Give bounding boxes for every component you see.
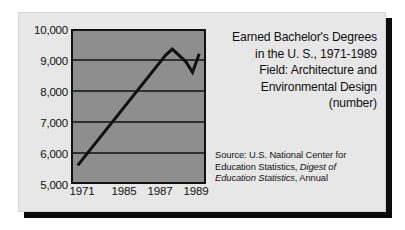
y-tick-7000: 7,000 [40,118,68,130]
source-note-line-2-plain: Education Statistics, [215,161,300,172]
figure-root: 10,000 9,000 8,000 7,000 6,000 5,000 197… [0,0,405,230]
source-note-line-1: Source: U.S. National Center for [215,149,379,161]
source-note: Source: U.S. National Center for Educati… [215,149,379,184]
x-axis-tick-labels: 1971 1985 1987 1989 [71,186,206,202]
y-tick-6000: 6,000 [40,149,68,161]
x-tick-1989: 1989 [184,186,209,198]
source-note-line-3-italic: Education Statistics [215,172,295,183]
y-tick-5000: 5,000 [40,180,68,192]
source-note-line-3-plain: , Annual [295,172,328,183]
source-note-line-2: Education Statistics, Digest of [215,161,379,173]
y-tick-8000: 8,000 [40,87,68,99]
chart-card: 10,000 9,000 8,000 7,000 6,000 5,000 197… [18,12,386,212]
chart-title-line-2: in the U. S., 1971-1989 [215,46,377,63]
chart-title: Earned Bachelor's Degrees in the U. S., … [215,29,377,112]
data-series-line [78,49,200,165]
x-tick-1985: 1985 [112,186,137,198]
chart-title-line-4: Environmental Design [215,79,377,96]
source-note-line-3: Education Statistics, Annual [215,172,379,184]
source-note-line-2-italic: Digest of [300,161,336,172]
y-tick-10000: 10,000 [34,25,68,37]
chart-title-line-3: Field: Architecture and [215,62,377,79]
plot-svg [71,29,206,184]
x-tick-1987: 1987 [148,186,173,198]
x-tick-1971: 1971 [70,186,95,198]
chart-title-line-1: Earned Bachelor's Degrees [215,29,377,46]
y-axis-tick-labels: 10,000 9,000 8,000 7,000 6,000 5,000 [19,29,68,184]
gridlines [71,60,206,153]
y-tick-9000: 9,000 [40,56,68,68]
chart-title-line-5: (number) [215,95,377,112]
plot-region [71,29,206,184]
